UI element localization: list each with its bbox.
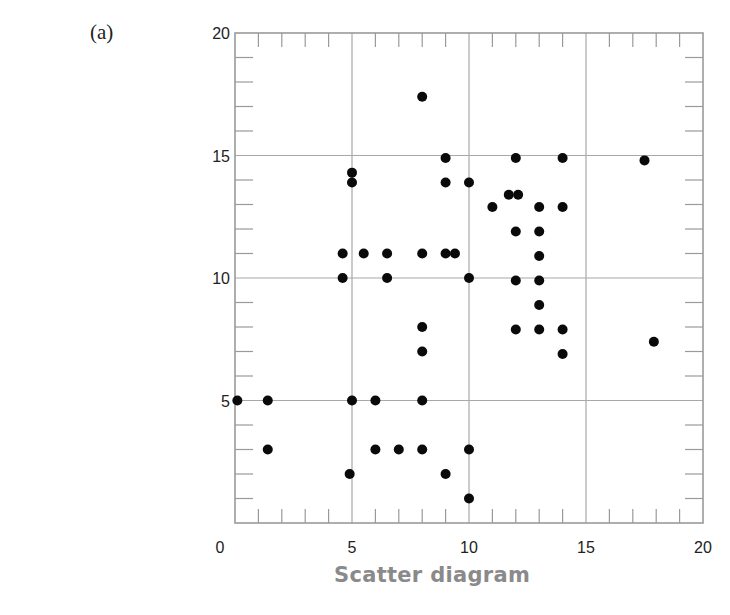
data-point (382, 273, 392, 283)
data-point (464, 445, 474, 455)
data-point (558, 202, 568, 212)
x-tick-label: 5 (348, 539, 357, 556)
data-point (534, 300, 544, 310)
y-axis-tick-labels: 5101520 (212, 25, 230, 410)
data-point (464, 494, 474, 504)
x-tick-label: 0 (216, 539, 225, 556)
y-tick-label: 20 (212, 25, 230, 42)
data-point (347, 396, 357, 406)
data-point (464, 273, 474, 283)
data-point (347, 177, 357, 187)
data-point (534, 275, 544, 285)
data-point (649, 337, 659, 347)
data-point (382, 249, 392, 259)
data-point (558, 349, 568, 359)
x-axis-tick-labels: 05101520 (216, 539, 712, 556)
data-points (232, 92, 659, 504)
x-tick-label: 20 (694, 539, 712, 556)
data-point (534, 226, 544, 236)
data-point (441, 177, 451, 187)
data-point (370, 396, 380, 406)
data-point (534, 251, 544, 261)
data-point (345, 469, 355, 479)
data-point (558, 324, 568, 334)
data-point (640, 155, 650, 165)
data-point (504, 190, 514, 200)
data-point (513, 190, 523, 200)
data-point (263, 396, 273, 406)
data-point (417, 347, 427, 357)
chart-caption: Scatter diagram (334, 563, 530, 587)
x-tick-label: 10 (460, 539, 478, 556)
data-point (417, 249, 427, 259)
data-point (511, 324, 521, 334)
data-point (417, 445, 427, 455)
data-point (417, 396, 427, 406)
data-point (534, 202, 544, 212)
data-point (370, 445, 380, 455)
data-point (487, 202, 497, 212)
data-point (359, 249, 369, 259)
data-point (441, 153, 451, 163)
x-tick-label: 15 (577, 539, 595, 556)
data-point (441, 249, 451, 259)
data-point (338, 249, 348, 259)
data-point (511, 275, 521, 285)
data-point (394, 445, 404, 455)
y-tick-label: 15 (212, 148, 230, 165)
data-point (347, 168, 357, 178)
data-point (263, 445, 273, 455)
data-point (511, 153, 521, 163)
scatter-chart: 05101520 5101520 (0, 0, 730, 615)
data-point (338, 273, 348, 283)
data-point (450, 249, 460, 259)
data-point (417, 92, 427, 102)
y-tick-label: 5 (221, 393, 230, 410)
data-point (558, 153, 568, 163)
data-point (417, 322, 427, 332)
data-point (441, 469, 451, 479)
y-tick-label: 10 (212, 270, 230, 287)
data-point (534, 324, 544, 334)
data-point (464, 177, 474, 187)
data-point (511, 226, 521, 236)
data-point (232, 396, 242, 406)
